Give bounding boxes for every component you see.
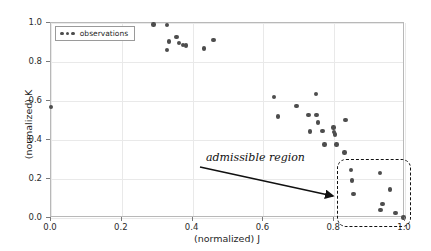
data-point [211,38,215,42]
data-point [314,92,318,96]
y-axis-tick-label: 1.0 [28,17,42,27]
data-point [314,113,318,117]
gridline-horizontal [51,23,403,24]
data-point [165,23,169,27]
data-point [272,95,276,99]
admissible-region-box [337,159,411,227]
y-axis-tick [46,61,50,62]
gridline-vertical [122,23,123,216]
data-point [167,39,171,43]
x-axis-tick [50,217,51,221]
data-point [343,118,347,122]
x-axis-tick [121,217,122,221]
x-axis-tick-label: 0.6 [256,222,270,232]
x-axis-tick-label: 0.4 [185,222,199,232]
data-point [151,22,155,26]
legend-label-observations: observations [80,29,128,38]
data-point [174,35,178,39]
x-axis-tick [333,217,334,221]
gridline-vertical [263,23,264,216]
x-axis-tick [262,217,263,221]
y-axis-tick [46,22,50,23]
x-axis-tick [192,217,193,221]
y-axis-tick [46,217,50,218]
y-axis-tick [46,100,50,101]
data-point [334,142,338,146]
x-axis-tick-label: 0.0 [43,222,57,232]
data-point [49,105,53,109]
legend[interactable]: observations [55,26,135,41]
data-point [320,129,324,133]
data-point [202,46,206,50]
data-point [184,43,188,47]
scatter-plot-figure: 0.00.20.40.60.81.00.00.20.40.60.81.0 (no… [0,0,431,251]
y-axis-tick [46,139,50,140]
data-point [333,132,337,136]
gridline-vertical [51,23,52,216]
data-point [308,129,312,133]
gridline-vertical [334,23,335,216]
data-point [342,150,346,154]
y-axis-tick-label: 0.0 [28,212,42,222]
gridline-vertical [193,23,194,216]
data-point [316,120,320,124]
data-point [276,114,280,118]
y-axis-tick [46,178,50,179]
data-point [322,142,326,146]
gridline-horizontal [51,62,403,63]
data-point [306,113,310,117]
x-axis-title: (normalized) J [50,233,404,244]
legend-marker-observations [60,32,75,36]
gridline-horizontal [51,140,403,141]
x-axis-tick-label: 0.2 [114,222,128,232]
admissible-region-annotation-label: admissible region [206,151,305,164]
data-point [165,48,169,52]
gridline-horizontal [51,101,403,102]
data-point [294,104,298,108]
y-axis-title: (normalized) K [23,55,34,195]
